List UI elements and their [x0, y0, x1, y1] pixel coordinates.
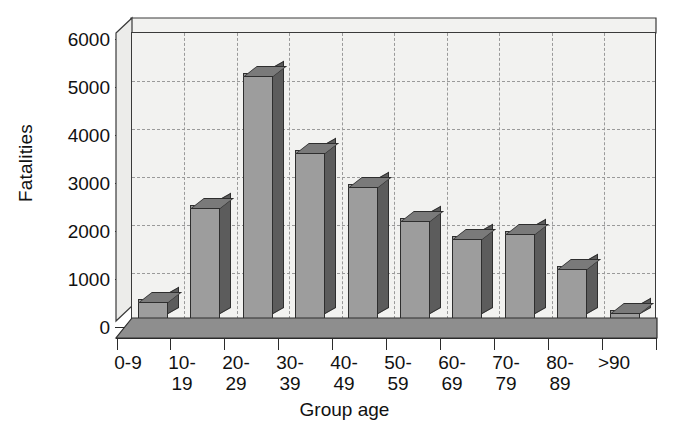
x-tick-label-10-19: 10-19 [151, 352, 213, 394]
bar-front-face [348, 184, 378, 320]
bar-50-59 [400, 218, 430, 320]
bar-side-face [273, 60, 284, 314]
x-tick-label-line: 10- [151, 352, 213, 373]
x-tick-mark-3 [278, 338, 279, 350]
x-tick-mark-8 [548, 338, 549, 350]
bar-20-29 [243, 73, 273, 320]
plot-top-edge [131, 18, 656, 33]
bar-side-face [220, 192, 231, 314]
x-tick-label-30-39: 30-39 [259, 352, 321, 394]
x-tick-label-line: 79 [475, 373, 537, 394]
x-tick-label-line: 20- [205, 352, 267, 373]
plot-left-wall [116, 18, 132, 321]
x-tick-label-line: 69 [421, 373, 483, 394]
x-tick-label-line: 50- [367, 352, 429, 373]
x-tick-label-line: 29 [205, 373, 267, 394]
bar-side-face [378, 172, 389, 314]
bar-30-39 [295, 150, 325, 320]
bar-10-19 [190, 205, 220, 320]
x-tick-label-70-79: 70-79 [475, 352, 537, 394]
bar-front-face [190, 205, 220, 320]
x-tick-mark-6 [440, 338, 441, 350]
bar-front-face [505, 231, 535, 320]
x-tick-label-line: >90 [583, 352, 645, 373]
x-tick-mark-5 [386, 338, 387, 350]
x-tick-label-line: 0-9 [97, 352, 159, 373]
x-axis-title: Group age [0, 399, 689, 421]
y-tick-label-4000: 4000 [48, 126, 110, 145]
bar-60-69 [452, 236, 482, 320]
x-tick-mark-2 [224, 338, 225, 350]
y-tick-label-1000: 1000 [48, 270, 110, 289]
plot-floor [116, 318, 657, 338]
x-tick-mark-10 [656, 338, 657, 350]
bar-front-face [243, 73, 273, 320]
bar-side-face [430, 206, 441, 314]
x-tick-label-0-9: 0-9 [97, 352, 159, 373]
x-tick-mark-4 [332, 338, 333, 350]
y-tick-label-6000: 6000 [48, 30, 110, 49]
x-tick-label-20-29: 20-29 [205, 352, 267, 394]
x-tick-mark-1 [170, 338, 171, 350]
x-tick-mark-0 [117, 338, 118, 350]
x-axis-tick-labels: 0-910-1920-2930-3940-4950-5960-6970-7980… [0, 352, 689, 404]
y-tick-label-5000: 5000 [48, 78, 110, 97]
y-axis-title: Fatalities [15, 93, 37, 233]
bar-80-89 [557, 266, 587, 320]
y-tick-label-2000: 2000 [48, 222, 110, 241]
x-tick-label-40-49: 40-49 [313, 352, 375, 394]
x-tick-label-line: 60- [421, 352, 483, 373]
x-tick-label-line: 19 [151, 373, 213, 394]
bar-top-face [610, 303, 654, 314]
bar-70-79 [505, 231, 535, 320]
x-tick-label-50-59: 50-59 [367, 352, 429, 394]
x-tick-label-60-69: 60-69 [421, 352, 483, 394]
bar-side-face [325, 137, 336, 314]
x-tick-label-line: 49 [313, 373, 375, 394]
y-tick-label-3000: 3000 [48, 174, 110, 193]
x-tick-label->90: >90 [583, 352, 645, 373]
bar-front-face [295, 150, 325, 320]
bar-front-face [400, 218, 430, 320]
x-tick-label-line: 89 [529, 373, 591, 394]
bar-0-9 [138, 299, 168, 320]
bar-chart: Fatalities 6000 5000 4000 3000 2000 1000… [0, 0, 689, 431]
bar-front-face [557, 266, 587, 320]
bar-front-face [452, 236, 482, 320]
x-tick-label-line: 80- [529, 352, 591, 373]
x-tick-label-line: 39 [259, 373, 321, 394]
x-tick-label-line: 59 [367, 373, 429, 394]
x-tick-label-line: 30- [259, 352, 321, 373]
x-tick-mark-9 [602, 338, 603, 350]
bar-40-49 [348, 184, 378, 320]
bar-series [131, 32, 656, 320]
x-tick-label-line: 70- [475, 352, 537, 373]
y-tick-label-0: 0 [48, 318, 110, 337]
x-tick-label-line: 40- [313, 352, 375, 373]
x-tick-label-80-89: 80-89 [529, 352, 591, 394]
x-tick-mark-7 [494, 338, 495, 350]
